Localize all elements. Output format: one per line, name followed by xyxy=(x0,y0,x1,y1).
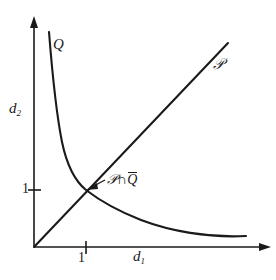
y-axis-arrowhead-icon xyxy=(30,16,38,28)
figure-canvas: d2 d1 1 1 Q 𝒫 𝒫∩Q xyxy=(0,0,276,280)
diagram-svg xyxy=(0,0,276,280)
x-axis-tick-label-1: 1 xyxy=(78,251,85,265)
x-axis-arrowhead-icon xyxy=(259,243,271,251)
curve-label-p: 𝒫 xyxy=(213,57,224,72)
y-axis-tick-label-1: 1 xyxy=(22,182,29,196)
curve-label-q: Q xyxy=(53,37,64,52)
intersection-label-qbar: Q xyxy=(127,173,137,187)
intersection-label: 𝒫∩Q xyxy=(107,173,137,187)
intersection-arrowhead-icon xyxy=(86,183,98,190)
y-axis-label: d2 xyxy=(9,101,21,116)
intersection-label-p: 𝒫 xyxy=(107,172,117,187)
intersection-cap-icon: ∩ xyxy=(117,172,127,187)
x-axis-label: d1 xyxy=(133,249,145,264)
